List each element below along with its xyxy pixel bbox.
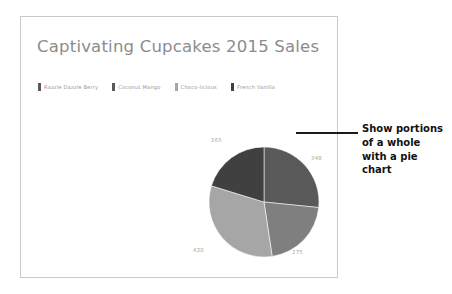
chart-title: Captivating Cupcakes 2015 Sales [37,37,319,56]
legend-item-razzle-dazzle-berry[interactable]: Razzle Dazzle Berry [38,83,98,91]
legend-swatch-icon [38,83,41,91]
callout-annotation: Show portions of a whole with a pie char… [296,122,446,182]
legend-item-french-vanilla[interactable]: French Vanilla [231,83,275,91]
callout-leader-line [296,132,358,134]
legend-item-label: French Vanilla [237,84,275,90]
callout-text: Show portions of a whole with a pie char… [362,122,446,177]
slide-frame: Captivating Cupcakes 2015 Sales Razzle D… [20,16,338,278]
legend-swatch-icon [231,83,234,91]
chart-legend: Razzle Dazzle Berry Coconut Mango Choco-… [38,83,275,91]
legend-item-label: Coconut Mango [118,84,160,90]
pie-slice-label: 275 [292,249,303,255]
legend-item-label: Razzle Dazzle Berry [44,84,98,90]
legend-item-choco-licious[interactable]: Choco-licious [175,83,217,91]
legend-item-coconut-mango[interactable]: Coconut Mango [112,83,160,91]
legend-swatch-icon [175,83,178,91]
legend-swatch-icon [112,83,115,91]
pie-slice-label: 265 [211,137,222,143]
pie-slice-label: 420 [193,247,204,253]
legend-item-label: Choco-licious [181,84,217,90]
